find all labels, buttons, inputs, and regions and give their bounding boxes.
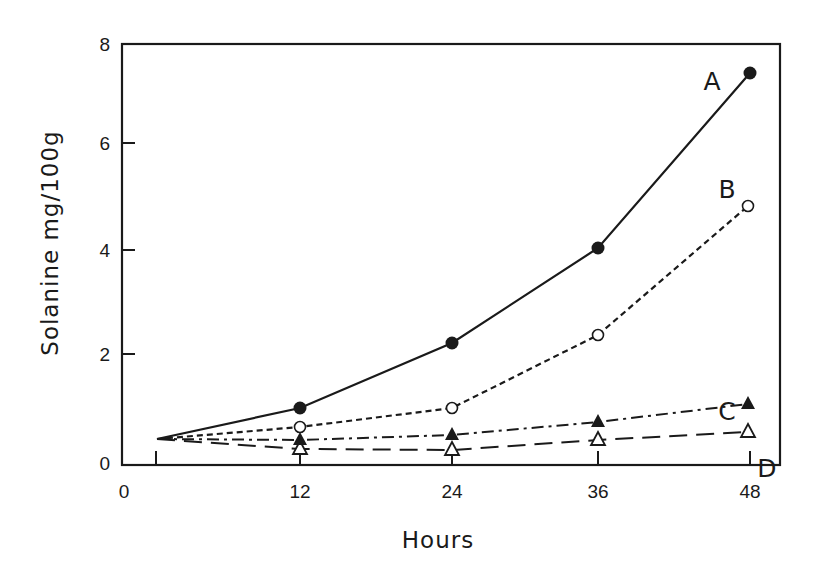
- filled-circle-marker: [592, 242, 605, 255]
- open-triangle-marker: [445, 442, 459, 455]
- open-circle-marker: [593, 330, 604, 341]
- y-tick-labels: 8 6 4 2 0: [99, 34, 110, 474]
- x-tick-labels: 0 12 24 36 48: [119, 481, 761, 502]
- series-label-c: C: [718, 397, 735, 426]
- y-tick-8: 8: [99, 34, 110, 55]
- x-axis-title: Hours: [402, 527, 474, 553]
- series-label-a: A: [703, 67, 720, 96]
- filled-triangle-marker: [445, 427, 459, 440]
- x-tick-0: 0: [119, 481, 130, 502]
- x-tick-48: 48: [739, 481, 760, 502]
- series-a: [157, 67, 757, 440]
- filled-circle-marker: [294, 402, 307, 415]
- open-circle-marker: [743, 201, 754, 212]
- x-tick-12: 12: [289, 481, 310, 502]
- y-tick-0: 0: [99, 453, 110, 474]
- open-triangle-marker: [741, 424, 755, 437]
- y-axis-title: Solanine mg/100g: [37, 130, 63, 355]
- open-circle-marker: [447, 403, 458, 414]
- filled-circle-marker: [744, 67, 757, 80]
- filled-triangle-marker: [591, 414, 605, 427]
- filled-circle-marker: [446, 337, 459, 350]
- x-tick-36: 36: [587, 481, 608, 502]
- open-triangle-marker: [591, 432, 605, 445]
- series-b: [157, 201, 754, 440]
- series-label-d: D: [757, 454, 776, 483]
- series-label-b: B: [718, 175, 735, 204]
- filled-triangle-marker: [741, 396, 755, 409]
- y-tick-2: 2: [99, 344, 110, 365]
- x-tick-24: 24: [441, 481, 463, 502]
- y-tick-4: 4: [99, 240, 110, 261]
- filled-triangle-marker: [293, 432, 307, 445]
- solanine-line-chart: 8 6 4 2 0 0 12 24 36 48 Hours Solanine m…: [0, 0, 819, 578]
- y-axis-ticks: [122, 143, 135, 354]
- open-circle-marker: [295, 422, 306, 433]
- y-tick-6: 6: [99, 133, 110, 154]
